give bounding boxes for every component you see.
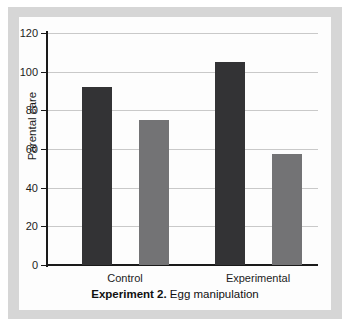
y-axis-title: Parental care [26, 56, 38, 196]
caption-regular-part: Egg manipulation [167, 288, 259, 300]
y-tick-label: 120 [8, 28, 38, 39]
bar [139, 120, 169, 265]
y-tick-label: 0 [8, 260, 38, 271]
figure-caption: Experiment 2. Egg manipulation [19, 288, 331, 301]
bar [272, 154, 302, 265]
x-category-label: Control [65, 272, 185, 284]
bar [215, 62, 245, 265]
x-category-label: Experimental [198, 272, 318, 284]
bar [82, 87, 112, 265]
y-tick-label: 20 [8, 221, 38, 232]
caption-bold-part: Experiment 2. [91, 288, 166, 300]
figure-panel: 020406080100120 Parental care ControlExp… [0, 0, 350, 329]
